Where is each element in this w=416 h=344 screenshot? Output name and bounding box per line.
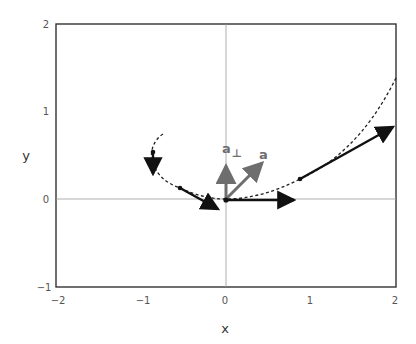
- point-marker: [298, 177, 303, 182]
- velocity-arrow-right: [300, 127, 393, 179]
- y-tick-neg1: −1: [37, 282, 52, 293]
- a-arrow: [226, 163, 262, 199]
- y-tick-1: 1: [43, 106, 49, 117]
- point-marker: [178, 186, 183, 191]
- x-tick-neg2: −2: [51, 295, 66, 306]
- x-axis-label: x: [221, 321, 229, 336]
- trajectory-curve: [151, 78, 396, 199]
- a-label: a: [259, 147, 268, 162]
- y-tick-2: 2: [43, 19, 49, 30]
- a-perp-label: a⊥: [222, 141, 242, 160]
- x-tick-1: 1: [307, 295, 313, 306]
- x-tick-0: 0: [222, 295, 228, 306]
- x-tick-2: 2: [392, 295, 398, 306]
- figure-canvas: 2 1 0 −1 −2 −1 0 1 2 x y a⊥ a: [0, 0, 416, 344]
- y-axis-label: y: [22, 148, 30, 163]
- y-tick-0: 0: [43, 194, 49, 205]
- origin-point: [223, 197, 228, 202]
- x-tick-neg1: −1: [136, 295, 151, 306]
- point-marker: [151, 150, 156, 155]
